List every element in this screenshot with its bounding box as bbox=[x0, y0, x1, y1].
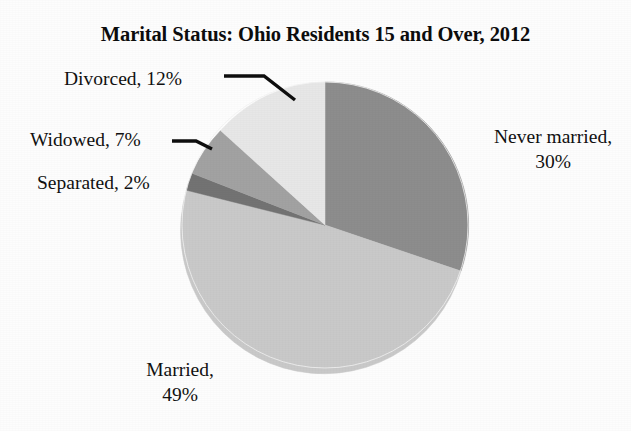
leader-line-widowed bbox=[172, 141, 212, 149]
slice-label-never-married-line2: 30% bbox=[478, 149, 628, 174]
slice-label-married: Married, 49% bbox=[120, 357, 240, 407]
slice-label-separated: Separated, 2% bbox=[37, 170, 150, 195]
slice-label-never-married-line1: Never married, bbox=[478, 124, 628, 149]
pie-chart-figure: Marital Status: Ohio Residents 15 and Ov… bbox=[0, 0, 631, 431]
slice-label-divorced: Divorced, 12% bbox=[64, 66, 182, 91]
slice-label-widowed-text: Widowed, 7% bbox=[30, 127, 141, 152]
slice-label-widowed: Widowed, 7% bbox=[30, 127, 141, 152]
slice-label-divorced-text: Divorced, 12% bbox=[64, 66, 182, 91]
slice-label-married-line2: 49% bbox=[120, 382, 240, 407]
slice-label-separated-text: Separated, 2% bbox=[37, 170, 150, 195]
slice-label-married-line1: Married, bbox=[120, 357, 240, 382]
pie-chart-graphic bbox=[0, 0, 631, 431]
slice-label-never-married: Never married, 30% bbox=[478, 124, 628, 174]
